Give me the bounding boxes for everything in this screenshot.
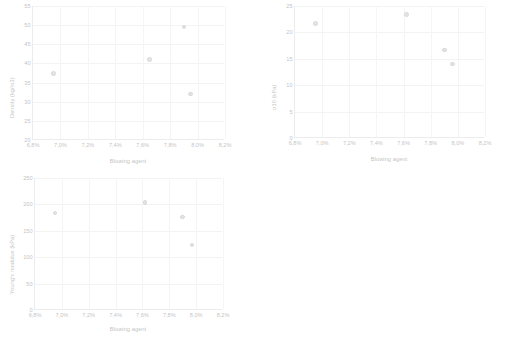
x-axis-tick-label: 8,0%: [451, 140, 464, 146]
x-axis-tick-label: 7,2%: [81, 142, 94, 148]
data-point-marker: [143, 200, 148, 205]
data-point-marker: [188, 92, 193, 97]
gridline-vertical: [223, 178, 224, 309]
chart-sigma10-wrap: σ10 (kPa) 05101520256,8%7,0%7,2%7,4%7,6%…: [262, 0, 518, 170]
gridline-vertical: [404, 6, 405, 137]
x-axis-tick-label: 7,6%: [397, 140, 410, 146]
gridline-vertical: [142, 178, 143, 309]
gridline-vertical: [485, 6, 486, 137]
x-axis-tick-label: 7,4%: [109, 312, 122, 318]
gridline-horizontal: [35, 231, 222, 232]
chart-youngs-y-axis-title: Young's modulus (kPa): [9, 235, 15, 294]
gridline-horizontal: [33, 6, 224, 7]
x-axis-tick-label: 7,4%: [109, 142, 122, 148]
data-point-marker: [53, 211, 58, 216]
y-axis-tick-label: 15: [286, 56, 292, 62]
y-axis-tick-label: 150: [23, 228, 32, 234]
gridline-horizontal: [295, 85, 484, 86]
data-point-marker: [147, 57, 152, 62]
x-axis-tick-label: 6,8%: [29, 312, 42, 318]
x-axis-tick-label: 7,4%: [370, 140, 383, 146]
gridline-horizontal: [33, 44, 224, 45]
gridline-vertical: [198, 6, 199, 139]
gridline-vertical: [115, 6, 116, 139]
gridline-vertical: [431, 6, 432, 137]
x-axis-tick-label: 7,0%: [316, 140, 329, 146]
gridline-vertical: [376, 6, 377, 137]
gridline-vertical: [458, 6, 459, 137]
gridline-horizontal: [35, 178, 222, 179]
gridline-horizontal: [295, 32, 484, 33]
data-point-marker: [51, 71, 56, 76]
gridline-vertical: [143, 6, 144, 139]
y-axis-tick-label: 5: [289, 109, 292, 115]
x-axis-tick-label: 7,2%: [343, 140, 356, 146]
y-axis-tick-label: 25: [24, 118, 30, 124]
chart-youngs-x-axis-title: Blowing agent: [34, 326, 222, 332]
gridline-vertical: [225, 6, 226, 139]
chart-youngs-plot-area: 0501001502002506,8%7,0%7,2%7,4%7,6%7,8%8…: [34, 178, 222, 310]
y-axis-tick-label: 25: [286, 3, 292, 9]
x-axis-tick-label: 7,0%: [55, 312, 68, 318]
chart-sigma10-x-axis-title: Blowing agent: [294, 156, 484, 162]
x-axis-tick-label: 7,6%: [136, 142, 149, 148]
x-axis-tick-label: 7,6%: [136, 312, 149, 318]
data-point-marker: [190, 243, 195, 248]
gridline-vertical: [60, 6, 61, 139]
x-axis-tick-label: 8,2%: [217, 312, 230, 318]
x-axis-tick-label: 8,0%: [191, 142, 204, 148]
gridline-vertical: [89, 178, 90, 309]
gridline-horizontal: [33, 121, 224, 122]
gridline-vertical: [169, 178, 170, 309]
x-axis-tick-label: 6,8%: [289, 140, 302, 146]
y-axis-tick-label: 30: [24, 99, 30, 105]
chart-sigma10-plot-area: 05101520256,8%7,0%7,2%7,4%7,6%7,8%8,0%8,…: [294, 6, 484, 138]
data-point-marker: [442, 48, 447, 53]
gridline-vertical: [349, 6, 350, 137]
x-axis-tick-label: 7,0%: [54, 142, 67, 148]
chart-sigma10-y-axis-title: σ10 (kPa): [271, 85, 277, 111]
y-axis-tick-label: 55: [24, 3, 30, 9]
y-axis-tick-label: 35: [24, 80, 30, 86]
chart-density: Density (kg/m3) 20253035404550556,8%7,0%…: [0, 0, 262, 170]
y-axis-tick-label: 45: [24, 41, 30, 47]
x-axis-tick-label: 7,2%: [82, 312, 95, 318]
chart-youngs-wrap: Young's modulus (kPa) 0501001502002506,8…: [0, 172, 262, 338]
chart-density-wrap: Density (kg/m3) 20253035404550556,8%7,0%…: [0, 0, 262, 170]
chart-density-plot-area: 20253035404550556,8%7,0%7,2%7,4%7,6%7,8%…: [32, 6, 224, 140]
gridline-horizontal: [295, 6, 484, 7]
gridline-vertical: [88, 6, 89, 139]
data-point-marker: [450, 62, 455, 67]
x-axis-tick-label: 7,8%: [163, 312, 176, 318]
y-axis-tick-label: 40: [24, 60, 30, 66]
gridline-horizontal: [35, 257, 222, 258]
gridline-vertical: [62, 178, 63, 309]
y-axis-tick-label: 50: [26, 281, 32, 287]
data-point-marker: [180, 215, 185, 220]
x-axis-tick-label: 6,8%: [27, 142, 40, 148]
y-axis-tick-label: 200: [23, 201, 32, 207]
chart-density-x-axis-title: Blowing agent: [32, 158, 224, 164]
x-axis-tick-label: 8,2%: [219, 142, 232, 148]
gridline-vertical: [196, 178, 197, 309]
x-axis-tick-label: 7,8%: [424, 140, 437, 146]
data-point-marker: [182, 25, 187, 30]
chart-density-y-axis-title: Density (kg/m3): [9, 77, 15, 118]
gridline-horizontal: [33, 83, 224, 84]
data-point-marker: [404, 12, 409, 17]
y-axis-tick-label: 250: [23, 175, 32, 181]
y-axis-tick-label: 50: [24, 22, 30, 28]
x-axis-tick-label: 8,2%: [479, 140, 492, 146]
x-axis-tick-label: 7,8%: [164, 142, 177, 148]
y-axis-tick-label: 20: [286, 29, 292, 35]
gridline-horizontal: [33, 63, 224, 64]
x-axis-tick-label: 8,0%: [190, 312, 203, 318]
gridline-vertical: [116, 178, 117, 309]
chart-youngs-modulus: Young's modulus (kPa) 0501001502002506,8…: [0, 172, 262, 338]
data-point-marker: [313, 21, 318, 26]
gridline-horizontal: [33, 25, 224, 26]
gridline-vertical: [170, 6, 171, 139]
gridline-horizontal: [295, 112, 484, 113]
gridline-horizontal: [35, 204, 222, 205]
y-axis-tick-label: 10: [286, 82, 292, 88]
